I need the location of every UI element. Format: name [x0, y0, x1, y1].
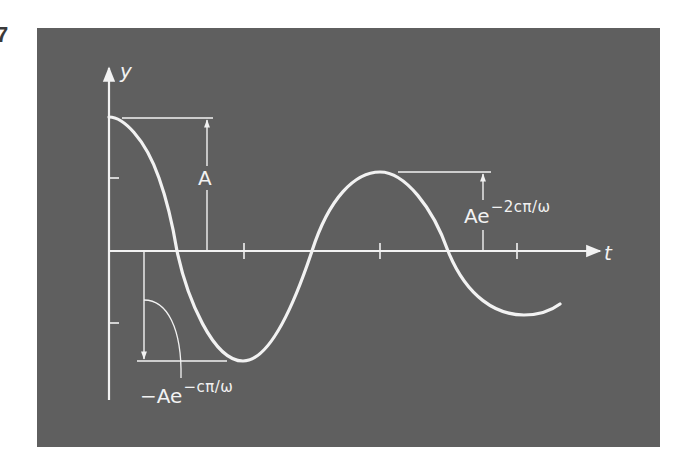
trough-label-leader [144, 300, 181, 378]
first-trough-label-base: −Ae [140, 384, 182, 408]
diagram-panel: y t A Ae−2cπ/ω −Ae−cπ/ω [37, 28, 660, 447]
y-axis-label: y [120, 61, 132, 81]
damped-oscillation-plot [37, 28, 660, 447]
figure-number-fragment: 7 [0, 22, 8, 48]
amplitude-a-label: A [198, 166, 212, 190]
second-peak-label-base: Ae [464, 204, 490, 228]
damped-oscillation-curve [109, 117, 560, 361]
second-peak-label: Ae−2cπ/ω [462, 202, 553, 230]
first-trough-label: −Ae−cπ/ω [140, 386, 233, 406]
first-trough-label-exponent: −cπ/ω [183, 378, 233, 396]
t-axis-label: t [604, 243, 612, 263]
second-peak-label-exponent: −2cπ/ω [491, 198, 551, 216]
